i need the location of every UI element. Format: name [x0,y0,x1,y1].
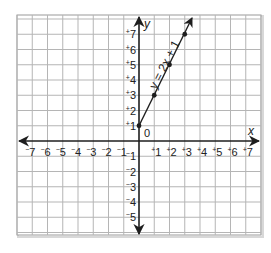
data-point [137,123,142,128]
data-point [152,93,157,98]
origin-label: 0 [144,127,150,139]
x-axis-label: x [247,124,255,138]
y-axis-label: y [143,17,151,31]
data-point [182,32,187,37]
coordinate-plane: −7−6−5−4−3−2−1+1+2+3+4+5+6+7+7+6+5+4+3+2… [0,0,271,253]
